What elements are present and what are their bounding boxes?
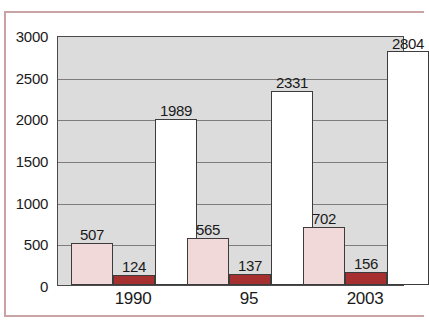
- frame-border-bottom: [4, 315, 424, 317]
- x-axis: 1990 95 2003: [57, 289, 404, 315]
- bar-value-label: 156: [354, 256, 378, 272]
- y-tick-1000: 1000: [16, 194, 48, 211]
- x-tick-95: 95: [240, 289, 258, 309]
- y-tick-1500: 1500: [16, 153, 48, 170]
- bar-2003-series-2[interactable]: 156: [345, 272, 387, 285]
- gridline-1000: [58, 204, 403, 205]
- bar-value-label: 1989: [160, 103, 192, 119]
- x-tick-2003: 2003: [347, 289, 384, 309]
- bar-95-series-2[interactable]: 137: [229, 274, 271, 285]
- y-tick-2000: 2000: [16, 111, 48, 128]
- bar-value-label: 702: [312, 211, 336, 227]
- bar-chart: 3000 2500 2000 1500 1000 500 0 507 124 1…: [0, 13, 424, 315]
- gridline-1500: [58, 162, 403, 163]
- gridline-2000: [58, 120, 403, 121]
- bar-1990-series-1[interactable]: 507: [71, 243, 113, 285]
- bar-2003-series-1[interactable]: 702: [303, 227, 345, 286]
- y-tick-2500: 2500: [16, 69, 48, 86]
- x-tick-1990: 1990: [115, 289, 152, 309]
- bar-value-label: 2804: [392, 36, 424, 52]
- bar-value-label: 507: [80, 227, 104, 243]
- y-axis: 3000 2500 2000 1500 1000 500 0: [0, 36, 52, 286]
- bar-1990-series-2[interactable]: 124: [113, 275, 155, 285]
- bar-value-label: 2331: [276, 75, 308, 91]
- y-tick-500: 500: [24, 236, 48, 253]
- plot-area: 507 124 1989 565 137 2331 702: [57, 36, 404, 286]
- bar-value-label: 124: [122, 259, 146, 275]
- y-tick-0: 0: [40, 278, 48, 295]
- y-tick-3000: 3000: [16, 28, 48, 45]
- bar-value-label: 137: [238, 258, 262, 274]
- bar-95-series-1[interactable]: 565: [187, 238, 229, 285]
- bar-2003-series-3[interactable]: 2804: [387, 51, 429, 285]
- gridline-2500: [58, 79, 403, 80]
- bar-value-label: 565: [196, 222, 220, 238]
